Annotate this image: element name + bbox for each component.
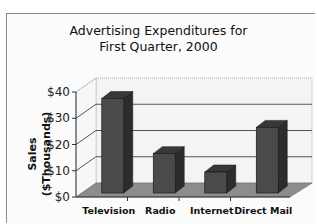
x-category-label: Internet	[190, 205, 234, 216]
y-tick-label: $40	[47, 85, 70, 99]
y-tick-label: $30	[47, 111, 70, 125]
x-category-label: Direct Mail	[234, 205, 292, 216]
bar-internet	[205, 172, 227, 193]
bar-side	[175, 147, 184, 193]
x-category-label: Television	[82, 205, 135, 216]
x-category-label: Radio	[145, 205, 176, 216]
y-tick-label: $0	[55, 190, 70, 204]
bar-side	[278, 120, 287, 193]
bar-television	[102, 99, 124, 194]
y-tick-label: $20	[47, 138, 70, 152]
bar-side	[124, 92, 133, 194]
y-tick-label: $10	[47, 164, 70, 178]
chart-plot: $0$10$20$30$40TelevisionRadioInternetDir…	[0, 0, 317, 224]
bar-radio	[153, 154, 175, 193]
bar-direct-mail	[256, 127, 278, 193]
